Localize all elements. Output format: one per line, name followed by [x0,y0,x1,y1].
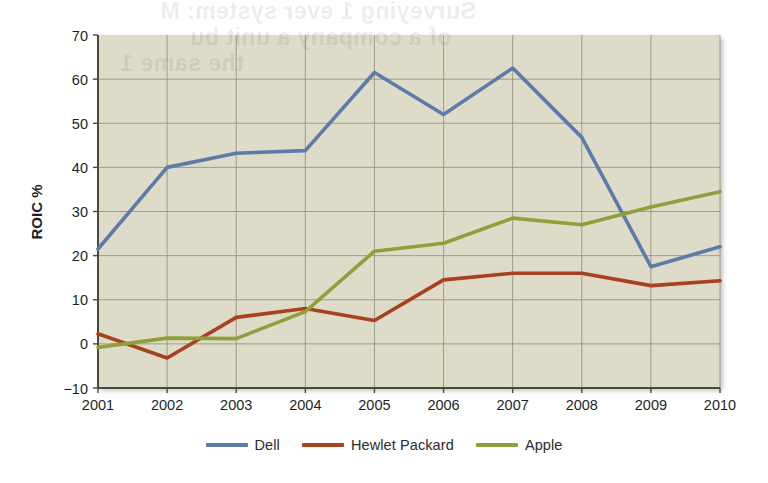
x-tick-label-2009: 2009 [635,397,667,413]
chart-canvas: −10010203040506070 200120022003200420052… [0,0,768,483]
legend-swatch-apple [476,443,518,447]
legend-item-dell[interactable]: Dell [206,437,280,453]
x-tick-label-2002: 2002 [151,397,183,413]
y-tick-label-0: 0 [80,336,88,352]
x-tick-label-2001: 2001 [82,397,114,413]
x-tick-label-2007: 2007 [497,397,529,413]
legend-swatch-dell [206,443,248,447]
y-tick-label-70: 70 [72,28,88,44]
legend-swatch-hewlet-packard [302,443,344,447]
x-tick-label-2004: 2004 [289,397,321,413]
x-tick-label-2003: 2003 [220,397,252,413]
y-axis-tick-labels: −10010203040506070 [63,28,98,397]
y-tick-label-50: 50 [72,116,88,132]
roic-line-chart: −10010203040506070 200120022003200420052… [0,0,768,483]
legend-item-apple[interactable]: Apple [476,437,563,453]
y-tick-label-60: 60 [72,72,88,88]
y-tick-label-40: 40 [72,160,88,176]
legend-label-apple: Apple [525,437,563,453]
x-tick-label-2005: 2005 [358,397,390,413]
legend-label-dell: Dell [255,437,280,453]
y-tick-label--10: −10 [63,381,88,397]
y-tick-label-10: 10 [72,292,88,308]
y-tick-label-20: 20 [72,248,88,264]
legend-label-hewlet-packard: Hewlet Packard [351,437,454,453]
x-tick-label-2008: 2008 [566,397,598,413]
legend-item-hewlet-packard[interactable]: Hewlet Packard [302,437,454,453]
y-tick-label-30: 30 [72,204,88,220]
y-axis-title: ROIC % [28,184,45,239]
x-tick-label-2010: 2010 [704,397,736,413]
x-tick-label-2006: 2006 [427,397,459,413]
chart-legend: Dell Hewlet Packard Apple [0,437,768,453]
x-axis-tick-labels: 2001200220032004200520062007200820092010 [82,388,736,413]
